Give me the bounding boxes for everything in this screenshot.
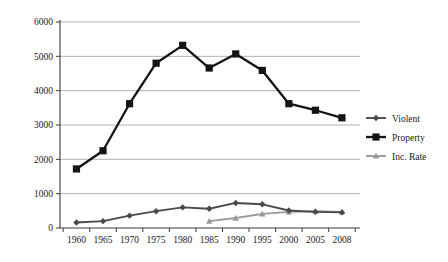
- data-point-marker: [73, 165, 80, 172]
- data-point-marker: [153, 208, 159, 214]
- y-tick-label: 5000: [34, 52, 53, 62]
- data-point-marker: [126, 212, 132, 218]
- x-tick-label: 1970: [120, 235, 139, 245]
- x-tick-label: 1985: [200, 235, 219, 245]
- x-tick-label: 2005: [306, 235, 325, 245]
- data-point-marker: [73, 219, 79, 225]
- x-tick-label: 2000: [279, 235, 298, 245]
- x-tick-label: 1990: [226, 235, 245, 245]
- series-line: [76, 45, 341, 169]
- data-point-marker: [312, 209, 318, 215]
- legend-label: Property: [392, 133, 425, 143]
- data-point-marker: [372, 133, 379, 140]
- y-tick-label: 3000: [34, 120, 53, 130]
- series-property: [73, 42, 346, 173]
- x-tick-label: 1975: [147, 235, 166, 245]
- x-axis-tick-labels: 1960196519701975198019851990199520002005…: [67, 235, 352, 245]
- line-chart: 0100020003000400050006000 19601965197019…: [0, 0, 448, 262]
- data-point-marker: [339, 209, 345, 215]
- data-point-marker: [259, 67, 266, 74]
- y-tick-label: 0: [48, 223, 53, 233]
- legend-label: Violent: [392, 114, 420, 124]
- y-axis: [56, 20, 60, 228]
- data-point-marker: [233, 200, 239, 206]
- y-tick-label: 6000: [34, 17, 53, 27]
- data-point-marker: [259, 201, 265, 207]
- data-point-marker: [206, 206, 212, 212]
- data-series-group: [73, 42, 346, 226]
- x-tick-label: 2008: [332, 235, 351, 245]
- data-point-marker: [338, 114, 345, 121]
- legend-label: Inc. Rate: [392, 152, 426, 162]
- y-tick-label: 1000: [34, 189, 53, 199]
- data-point-marker: [179, 42, 186, 49]
- chart-legend: ViolentPropertyInc. Rate: [366, 114, 426, 162]
- chart-container: 0100020003000400050006000 19601965197019…: [0, 0, 448, 262]
- x-tick-label: 1965: [94, 235, 113, 245]
- legend-item-violent[interactable]: Violent: [366, 114, 420, 124]
- x-tick-label: 1995: [253, 235, 272, 245]
- x-tick-label: 1960: [67, 235, 86, 245]
- data-point-marker: [312, 107, 319, 114]
- x-axis: [60, 228, 360, 232]
- data-point-marker: [100, 218, 106, 224]
- x-tick-label: 1980: [173, 235, 192, 245]
- series-inc-rate: [206, 208, 345, 224]
- y-axis-tick-labels: 0100020003000400050006000: [34, 17, 53, 233]
- data-point-marker: [206, 64, 213, 71]
- data-point-marker: [373, 115, 379, 121]
- data-point-marker: [179, 204, 185, 210]
- data-point-marker: [285, 100, 292, 107]
- legend-item-inc-rate[interactable]: Inc. Rate: [366, 152, 426, 162]
- y-tick-label: 2000: [34, 155, 53, 165]
- data-point-marker: [232, 50, 239, 57]
- data-point-marker: [126, 100, 133, 107]
- data-point-marker: [153, 60, 160, 67]
- data-point-marker: [99, 147, 106, 154]
- legend-item-property[interactable]: Property: [366, 133, 425, 143]
- y-tick-label: 4000: [34, 86, 53, 96]
